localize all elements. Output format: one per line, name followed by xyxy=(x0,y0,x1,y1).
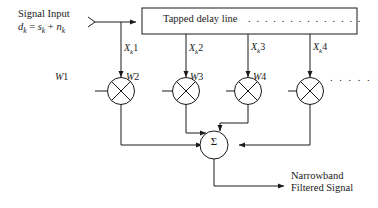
mult2-to-sum-path xyxy=(186,105,206,134)
weight-index-4: 4 xyxy=(261,71,266,82)
output-label: NarrowbandFiltered Signal xyxy=(291,170,353,194)
tap-label-3: Xk3 xyxy=(251,41,265,56)
weight-label-4: W4 xyxy=(253,71,266,82)
output-line-2: Filtered Signal xyxy=(291,182,353,194)
weight-label-3: W3 xyxy=(190,71,203,82)
eq-n-sub: k xyxy=(62,26,65,35)
block-diagram-canvas: Signal Input dk = sk + nk Tapped delay l… xyxy=(0,0,378,208)
tap-index-2: 2 xyxy=(198,42,203,53)
weight-index-2: 2 xyxy=(134,71,139,82)
tap-index-4: 4 xyxy=(322,41,327,52)
weight-index-3: 3 xyxy=(198,71,203,82)
output-line-1: Narrowband xyxy=(291,170,343,181)
eq-equals: = xyxy=(27,21,38,32)
tap-index-1: 1 xyxy=(133,42,138,53)
tapped-delay-line-dots: . . . . . . . . . . . . . . xyxy=(248,13,362,25)
input-chevron-icon xyxy=(88,17,95,27)
tap-label-2: Xk2 xyxy=(189,42,203,57)
signal-input-label: Signal Input xyxy=(18,8,70,20)
output-line xyxy=(214,159,284,186)
tap-index-3: 3 xyxy=(260,41,265,52)
weight-label-2: W2 xyxy=(126,71,139,82)
summation-sigma-glyph: Σ xyxy=(203,135,225,147)
multiplier-continuation-dots: . . . . . xyxy=(330,72,372,84)
tapped-delay-line-label: Tapped delay line xyxy=(163,13,237,25)
multiplier-cross-4 xyxy=(301,82,320,101)
weight-label-1: W1 xyxy=(55,71,68,82)
weight-index-1: 1 xyxy=(63,71,68,82)
mult4-to-sum-path xyxy=(239,105,310,146)
signal-input-equation: dk = sk + nk xyxy=(18,21,65,35)
tap-label-4: Xk4 xyxy=(313,41,327,56)
multiplier-cross-1 xyxy=(112,82,131,101)
eq-plus: + xyxy=(45,21,56,32)
mult3-to-sum-path xyxy=(220,105,248,132)
multiplier-cross-3 xyxy=(239,82,258,101)
mult1-to-sum-path xyxy=(121,105,202,146)
multiplier-cross-2 xyxy=(177,82,196,101)
tap-label-1: Xk1 xyxy=(124,42,138,57)
